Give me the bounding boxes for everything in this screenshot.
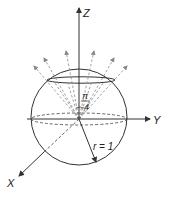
cone-rays <box>34 51 127 119</box>
angle-arc <box>76 107 84 108</box>
radius-label: r = 1 <box>93 141 113 152</box>
cap-circle <box>47 77 115 83</box>
x-axis-label: X <box>6 177 15 189</box>
angle-label-denominator: 4 <box>84 102 89 112</box>
x-axis-dashed <box>44 119 79 152</box>
z-axis-label: Z <box>82 7 91 19</box>
x-axis <box>19 152 44 176</box>
sphere-diagram: Z Y X r = 1 π 4 <box>0 0 169 198</box>
y-axis-label: Y <box>153 114 161 126</box>
angle-label-numerator: π <box>82 91 89 101</box>
